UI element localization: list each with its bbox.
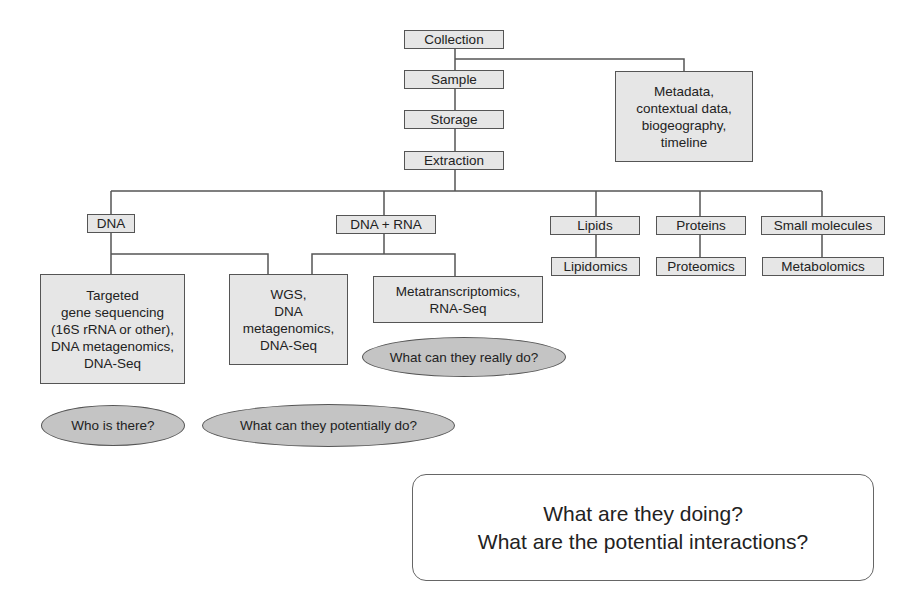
dna-rna-node: DNA + RNA <box>336 215 436 234</box>
summary-line-1: What are they doing? <box>543 500 743 528</box>
collection-node: Collection <box>404 30 504 49</box>
metabolomics-node: Metabolomics <box>762 257 884 276</box>
lipidomics-node: Lipidomics <box>551 257 640 276</box>
targeted-sequencing-node: Targeted gene sequencing (16S rRNA or ot… <box>40 274 185 384</box>
lipids-node: Lipids <box>550 216 640 235</box>
proteomics-node: Proteomics <box>656 257 746 276</box>
wgs-node: WGS, DNA metagenomics, DNA-Seq <box>229 274 348 365</box>
who-is-there-question: Who is there? <box>41 405 185 446</box>
metadata-node: Metadata, contextual data, biogeography,… <box>615 71 753 162</box>
proteins-node: Proteins <box>656 216 746 235</box>
really-do-question: What can they really do? <box>362 337 566 377</box>
potentially-do-question: What can they potentially do? <box>202 404 455 447</box>
summary-box: What are they doing? What are the potent… <box>412 474 874 581</box>
metatranscriptomics-node: Metatranscriptomics, RNA-Seq <box>373 276 543 323</box>
extraction-node: Extraction <box>404 151 504 170</box>
small-molecules-node: Small molecules <box>761 216 885 235</box>
sample-node: Sample <box>404 70 504 89</box>
summary-line-2: What are the potential interactions? <box>478 528 808 556</box>
storage-node: Storage <box>404 110 504 129</box>
dna-node: DNA <box>87 214 135 233</box>
